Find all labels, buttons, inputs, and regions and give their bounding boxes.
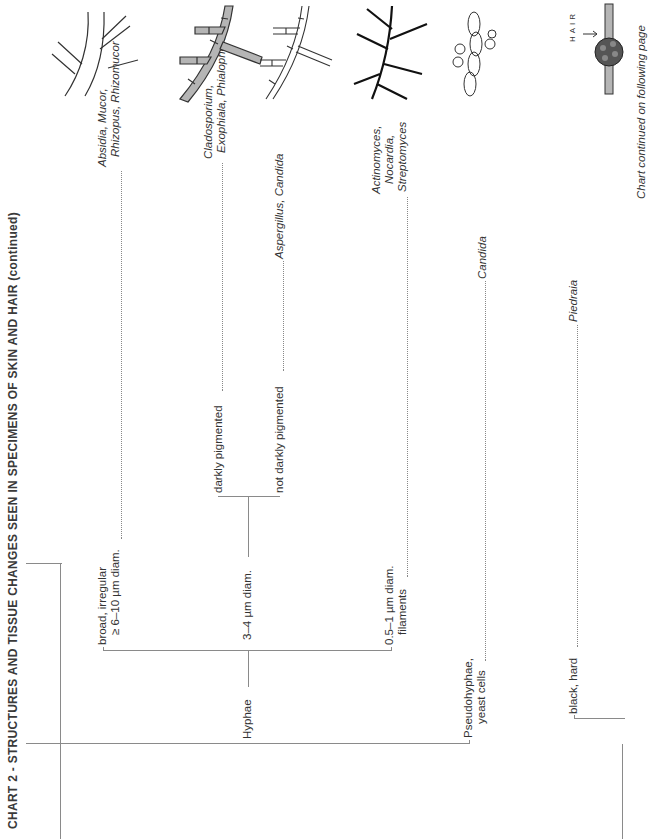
pigment-fork (218, 496, 280, 497)
node-black-hard: black, hard (567, 658, 580, 714)
result-piedraia: Piedraia (567, 280, 580, 322)
broad-branch-tick (103, 647, 104, 651)
leader-dots-filaments (407, 197, 408, 577)
trunk-vertical (60, 743, 470, 744)
page-rule-left-frame-2 (26, 563, 62, 564)
hair-label: HAIR (568, 11, 577, 42)
result-hyaline: Aspergillus, Candida (273, 154, 286, 259)
hyphae-fork (103, 650, 391, 651)
leader-dots-darkly (222, 163, 223, 391)
leader-dots-pseudohyphae (485, 281, 486, 661)
node-broad-irregular: broad, irregular ≥ 6–10 µm diam. (96, 549, 122, 645)
left-frame-bottom-line (622, 744, 623, 839)
thin-branching-filaments-illustration (352, 4, 432, 104)
result-candida: Candida (476, 236, 489, 279)
continued-note: Chart continued on following page (635, 25, 647, 199)
node-3-4-um: 3–4 µm diam. (241, 567, 254, 643)
leader-dots-black-hard (577, 325, 578, 647)
trunk-line (60, 564, 61, 744)
filaments-branch-tick (391, 647, 392, 651)
leader-dots-not-darkly (283, 261, 284, 371)
pseudohyphae-yeast-illustration (440, 4, 520, 104)
page-rule-left-frame (26, 743, 62, 744)
black-piedra-nodule-on-hair-illustration: HAIR (545, 4, 635, 104)
black-hard-tick (574, 715, 575, 719)
leader-dots-broad (121, 171, 122, 539)
node-darkly-pigmented: darkly pigmented (212, 405, 225, 493)
hyphae-to-fork-line (248, 651, 249, 687)
rotated-chart-page: CHART 2 - STRUCTURES AND TISSUE CHANGES … (0, 0, 659, 839)
result-actinomycetes: Actinomyces, Nocardia, Streptomyces (370, 122, 409, 194)
broad-aseptate-hyphae-illustration (60, 4, 140, 104)
mid-branch-line (248, 497, 249, 557)
node-not-darkly-pigmented: not darkly pigmented (273, 386, 286, 493)
hyaline-septate-hyphae-illustration (258, 4, 338, 104)
node-pseudohyphae: Pseudohyphae, yeast cells (462, 658, 488, 738)
dematiaceous-septate-hyphae-illustration (175, 4, 265, 104)
pseudohyphae-connector (469, 740, 470, 744)
left-frame-bottom-vertical (595, 718, 625, 719)
node-hyphae: Hyphae (241, 699, 254, 739)
node-filaments: 0.5–1 µm diam. filaments (383, 566, 409, 646)
chart-title: CHART 2 - STRUCTURES AND TISSUE CHANGES … (6, 212, 20, 829)
left-frame-top-line (60, 744, 61, 839)
